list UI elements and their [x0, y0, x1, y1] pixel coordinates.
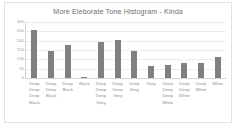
category-label: Grey [143, 81, 160, 87]
bar-slot [93, 22, 110, 78]
bar[interactable] [48, 51, 54, 78]
bar[interactable] [215, 57, 221, 78]
bar[interactable] [148, 66, 154, 78]
category-label-line: Black [59, 87, 76, 93]
category-label: DeepDeepDeepGrey [93, 81, 110, 106]
bar[interactable] [81, 77, 87, 78]
bar-slot [159, 22, 176, 78]
y-tick-label: 150 [8, 48, 24, 52]
category-label-line: Black [76, 81, 93, 87]
bar-slot [209, 22, 226, 78]
bar[interactable] [115, 40, 121, 78]
bar-slot [126, 22, 143, 78]
category-label-line: Grey [109, 93, 126, 99]
bar[interactable] [198, 63, 204, 78]
bar-slot [143, 22, 160, 78]
y-axis-tick-labels: 050100150200250300 [5, 22, 24, 78]
category-label-line: Grey [93, 100, 110, 106]
category-label: DeepWhite [193, 81, 210, 93]
y-tick-label: 50 [8, 67, 24, 71]
category-label: DeepDeepGrey [109, 81, 126, 100]
category-label-line: White [193, 87, 210, 93]
bar-slot [43, 22, 60, 78]
category-label-line: White [176, 93, 193, 99]
category-label: DeepGrey [126, 81, 143, 93]
bar[interactable] [165, 65, 171, 78]
category-label: DeepDeepDeepWhite [159, 81, 176, 106]
category-label: DeepDeepDeepBlack [26, 81, 43, 106]
y-tick-label: 0 [8, 76, 24, 80]
category-label-line: White [159, 100, 176, 106]
category-label: DeepDeepBlack [43, 81, 60, 100]
bar[interactable] [65, 45, 71, 78]
category-label-line: Black [43, 93, 60, 99]
y-tick-label: 250 [8, 29, 24, 33]
category-label-line: Grey [143, 81, 160, 87]
category-label-line: White [209, 81, 226, 87]
bar-slot [59, 22, 76, 78]
category-label: White [209, 81, 226, 87]
bar[interactable] [98, 42, 104, 78]
bar-slot [76, 22, 93, 78]
category-label: DeepBlack [59, 81, 76, 93]
bar-slot [26, 22, 43, 78]
y-tick-label: 200 [8, 39, 24, 43]
category-label-line: Black [26, 100, 43, 106]
bar-slot [193, 22, 210, 78]
gridline [26, 78, 226, 79]
chart-container: More Eleborate Tone Histogram - Kinda 05… [4, 2, 232, 123]
bar[interactable] [31, 30, 37, 78]
chart-title: More Eleborate Tone Histogram - Kinda [5, 7, 231, 16]
x-axis-category-labels: DeepDeepDeepBlackDeepDeepBlackDeepBlackB… [26, 81, 226, 123]
bar-series [26, 22, 226, 78]
y-tick-label: 100 [8, 57, 24, 61]
category-label: DeepDeepWhite [176, 81, 193, 100]
bar-slot [176, 22, 193, 78]
bar[interactable] [131, 51, 137, 78]
bar[interactable] [181, 63, 187, 78]
category-label-line: Grey [126, 87, 143, 93]
y-tick-label: 300 [8, 20, 24, 24]
bar-slot [109, 22, 126, 78]
category-label: Black [76, 81, 93, 87]
